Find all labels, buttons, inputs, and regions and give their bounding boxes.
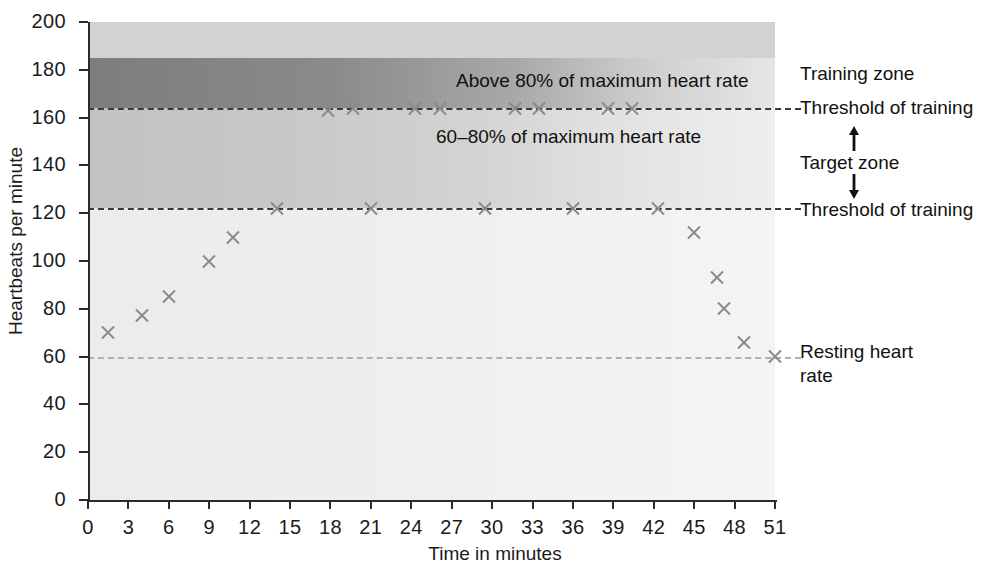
x-tick-label-21: 21 bbox=[349, 516, 393, 538]
x-tick-0 bbox=[87, 500, 89, 509]
y-tick-label-200: 200 bbox=[8, 11, 66, 31]
x-tick-label-45: 45 bbox=[672, 516, 716, 538]
reference-line-lower-threshold bbox=[88, 208, 801, 210]
x-tick-label-27: 27 bbox=[430, 516, 474, 538]
y-tick-160 bbox=[79, 117, 88, 119]
x-tick-label-3: 3 bbox=[106, 516, 150, 538]
x-tick-45 bbox=[693, 500, 695, 509]
legend-resting-heart-rate-line1: Resting heart bbox=[800, 340, 913, 364]
x-tick-label-42: 42 bbox=[632, 516, 676, 538]
x-tick-label-15: 15 bbox=[268, 516, 312, 538]
reference-line-upper-threshold bbox=[88, 108, 801, 110]
y-tick-label-20: 20 bbox=[8, 441, 66, 461]
y-tick-80 bbox=[79, 308, 88, 310]
chart-root: Above 80% of maximum heart rate 60–80% o… bbox=[0, 0, 990, 576]
annotation-target-range: 60–80% of maximum heart rate bbox=[436, 126, 701, 148]
x-tick-label-9: 9 bbox=[187, 516, 231, 538]
x-tick-label-36: 36 bbox=[551, 516, 595, 538]
zone-band-target bbox=[88, 108, 775, 208]
x-tick-label-12: 12 bbox=[228, 516, 272, 538]
x-tick-39 bbox=[612, 500, 614, 509]
x-tick-label-18: 18 bbox=[308, 516, 352, 538]
x-tick-label-48: 48 bbox=[713, 516, 757, 538]
y-tick-140 bbox=[79, 164, 88, 166]
x-tick-15 bbox=[289, 500, 291, 509]
x-tick-51 bbox=[774, 500, 776, 509]
arrow-up-icon bbox=[846, 124, 862, 154]
y-tick-20 bbox=[79, 451, 88, 453]
x-tick-label-39: 39 bbox=[591, 516, 635, 538]
y-tick-200 bbox=[79, 21, 88, 23]
x-tick-33 bbox=[532, 500, 534, 509]
y-axis-title: Heartbeats per minute bbox=[5, 61, 27, 421]
x-tick-30 bbox=[491, 500, 493, 509]
x-tick-24 bbox=[410, 500, 412, 509]
x-tick-label-51: 51 bbox=[753, 516, 797, 538]
x-tick-27 bbox=[451, 500, 453, 509]
x-tick-18 bbox=[329, 500, 331, 509]
legend-threshold-upper: Threshold of training bbox=[800, 96, 973, 120]
x-axis-line bbox=[88, 500, 777, 502]
x-tick-label-24: 24 bbox=[389, 516, 433, 538]
y-tick-180 bbox=[79, 69, 88, 71]
plot-area: Above 80% of maximum heart rate 60–80% o… bbox=[88, 22, 775, 500]
y-tick-60 bbox=[79, 356, 88, 358]
x-tick-label-33: 33 bbox=[511, 516, 555, 538]
x-tick-12 bbox=[249, 500, 251, 509]
x-tick-42 bbox=[653, 500, 655, 509]
legend-threshold-lower: Threshold of training bbox=[800, 198, 973, 222]
zone-band-below-target bbox=[88, 208, 775, 500]
y-tick-40 bbox=[79, 403, 88, 405]
x-axis-title: Time in minutes bbox=[0, 543, 990, 565]
x-tick-label-30: 30 bbox=[470, 516, 514, 538]
y-tick-120 bbox=[79, 212, 88, 214]
x-tick-label-6: 6 bbox=[147, 516, 191, 538]
legend-resting-heart-rate-line2: rate bbox=[800, 364, 833, 388]
y-axis-line bbox=[88, 22, 90, 501]
x-tick-9 bbox=[208, 500, 210, 509]
reference-line-resting-heart-rate bbox=[88, 357, 801, 359]
x-tick-6 bbox=[168, 500, 170, 509]
x-tick-36 bbox=[572, 500, 574, 509]
annotation-above-80-percent: Above 80% of maximum heart rate bbox=[456, 70, 749, 92]
y-tick-label-0: 0 bbox=[8, 489, 66, 509]
zone-band-above-maximum bbox=[88, 22, 775, 58]
legend-training-zone: Training zone bbox=[800, 62, 914, 86]
x-tick-48 bbox=[734, 500, 736, 509]
x-tick-label-0: 0 bbox=[66, 516, 110, 538]
x-tick-3 bbox=[127, 500, 129, 509]
y-tick-100 bbox=[79, 260, 88, 262]
x-tick-21 bbox=[370, 500, 372, 509]
